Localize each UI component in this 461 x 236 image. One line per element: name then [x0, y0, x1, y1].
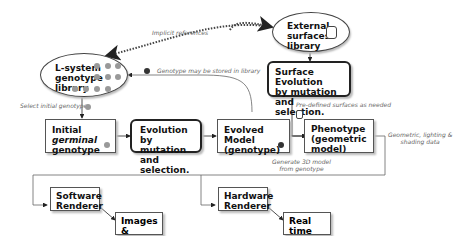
surface-small-icon: [296, 110, 303, 119]
annotation-geometric-data: Geometric, lighting & shading data: [388, 131, 452, 145]
hardware-renderer-box[interactable]: Hardware Renderer: [218, 187, 268, 211]
external-surfaces-library[interactable]: External surfaces library: [272, 12, 350, 52]
software-renderer-box[interactable]: Software Renderer: [50, 187, 100, 211]
surface-cylinder-icon: [326, 26, 337, 39]
evolved-dot-icon: [278, 142, 284, 148]
images-animation-output[interactable]: Images & Animation: [115, 212, 163, 235]
initial-dot-icon: [104, 142, 110, 148]
select-dot-icon: [85, 104, 91, 110]
annotation-implicit-references: Implicit references: [152, 29, 208, 36]
phenotype-box[interactable]: Phenotype (geometric model): [304, 119, 374, 153]
annotation-genotype-stored: Genotype may be stored in library: [157, 67, 260, 74]
realtime-display-output[interactable]: Real time display: [283, 212, 331, 235]
annotation-generate-3d: Generate 3D model from genotype: [272, 158, 331, 172]
surface-evolution-box[interactable]: Surface Evolution by mutation and select…: [267, 61, 351, 97]
evolved-model-box[interactable]: Evolved Model (genotype): [217, 119, 290, 153]
genotype-dot-icon: [144, 68, 150, 74]
annotation-predefined-surfaces: Pre-defined surfaces as needed: [296, 101, 391, 108]
annotation-select-initial: Select initial genotype: [20, 102, 87, 109]
evolution-box[interactable]: Evolution by mutation and selection.: [130, 119, 202, 153]
